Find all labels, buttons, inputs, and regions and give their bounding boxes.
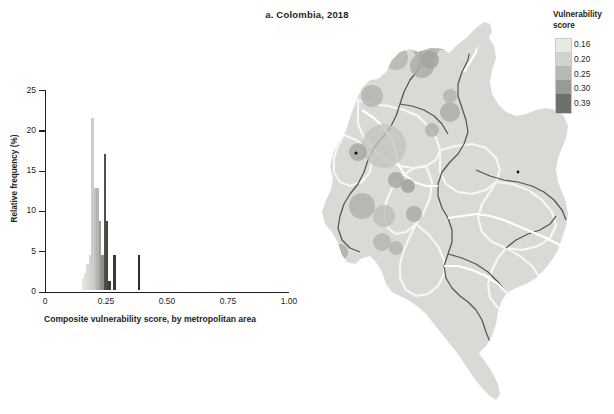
x-tick-label: 0.50 xyxy=(147,296,187,306)
histogram-bar xyxy=(113,255,115,290)
y-tick-label: 0 xyxy=(18,286,36,296)
x-axis-line xyxy=(45,292,289,293)
y-tick xyxy=(39,292,45,293)
y-tick-label: 20 xyxy=(18,125,36,135)
vulnerability-color-ramp xyxy=(555,38,572,114)
x-tick-label: 0 xyxy=(25,296,65,306)
x-tick-label: 0.25 xyxy=(86,296,126,306)
histogram-bar xyxy=(106,221,108,290)
histogram-bar xyxy=(108,281,110,290)
y-axis-label: Relative frequency (%) xyxy=(10,89,19,269)
y-tick-label: 5 xyxy=(18,246,36,256)
vulnerability-legend-title-line2: score xyxy=(553,21,575,30)
x-axis-label: Composite vulnerability score, by metrop… xyxy=(0,314,300,324)
y-tick-label: 25 xyxy=(18,85,36,95)
histogram-panel: 0510152025 00.250.500.751.00 Relative fr… xyxy=(0,70,300,320)
histogram-bar xyxy=(138,255,140,290)
vulnerability-legend-title-line1: Vulnerability xyxy=(553,10,602,19)
histogram-bars xyxy=(45,93,288,290)
vulnerability-legend-title: Vulnerability score xyxy=(553,10,613,31)
vulnerability-legend: Vulnerability score 0.160.200.250.300.39 xyxy=(553,10,614,120)
vulnerability-tick-label: 0.25 xyxy=(574,69,590,79)
x-tick-label: 0.75 xyxy=(208,296,248,306)
vulnerability-tick-label: 0.39 xyxy=(574,98,590,108)
vulnerability-tick-label: 0.20 xyxy=(574,54,590,64)
vulnerability-tick-label: 0.30 xyxy=(574,83,590,93)
y-tick-label: 15 xyxy=(18,165,36,175)
y-tick-label: 10 xyxy=(18,205,36,215)
y-tick xyxy=(39,90,45,91)
vulnerability-tick-label: 0.16 xyxy=(574,39,590,49)
